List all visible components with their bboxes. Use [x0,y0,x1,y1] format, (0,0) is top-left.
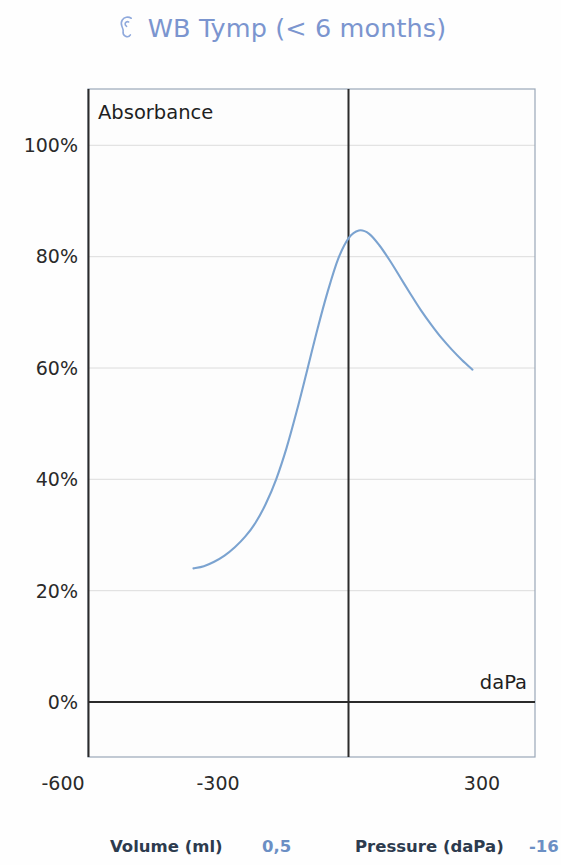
x-axis-tick-labels: -600 -300 300 [41,772,500,794]
x-axis-title: daPa [480,671,527,694]
volume-label: Volume (ml) [110,837,223,856]
pressure-value: -16 [529,837,559,856]
y-tick-80: 80% [36,245,78,267]
y-axis-title: Absorbance [98,101,213,124]
plot-background [88,89,535,757]
y-tick-40: 40% [36,468,78,490]
y-tick-0: 0% [48,691,78,713]
x-tick-300: 300 [464,772,500,794]
y-axis-tick-labels: 100% 80% 60% 40% 20% 0% [24,134,78,713]
tympanogram-plot: 100% 80% 60% 40% 20% 0% -600 -300 300 Ab… [0,0,561,820]
y-tick-20: 20% [36,580,78,602]
chart-container: 100% 80% 60% 40% 20% 0% -600 -300 300 Ab… [0,0,561,820]
y-tick-100: 100% [24,134,78,156]
measurement-readout-bar: Volume (ml) 0,5 Pressure (daPa) -16 [0,833,561,865]
volume-value: 0,5 [262,837,291,856]
x-tick-minus600: -600 [41,772,84,794]
x-tick-minus300: -300 [196,772,239,794]
pressure-label: Pressure (daPa) [355,837,504,856]
y-tick-60: 60% [36,357,78,379]
